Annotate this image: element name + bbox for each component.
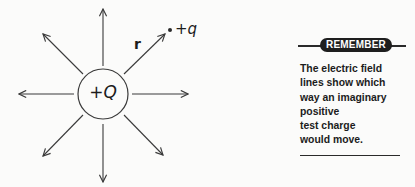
- remember-line: The electric field: [300, 62, 406, 76]
- test-charge-symbol: q: [188, 20, 198, 38]
- remember-line: way an imaginary: [300, 91, 406, 105]
- source-charge-label: +Q: [78, 82, 128, 102]
- remember-badge: REMEMBER: [320, 38, 392, 52]
- remember-header: REMEMBER: [298, 38, 406, 53]
- source-charge-sign: +: [89, 82, 103, 102]
- remember-callout: REMEMBER The electric field lines show w…: [298, 38, 406, 156]
- source-charge-symbol: Q: [103, 82, 116, 102]
- test-charge-dot-icon: [168, 28, 172, 32]
- remember-line: test charge: [300, 119, 406, 133]
- field-line-lower-right-arrow-icon: [124, 115, 163, 155]
- remember-line: lines show which: [300, 76, 406, 90]
- distance-label: r: [134, 36, 141, 52]
- field-line-lower-left-arrow-icon: [43, 115, 83, 156]
- field-line-diagram: +Q r +q: [0, 0, 210, 187]
- field-line-upper-left-arrow-icon: [43, 34, 83, 74]
- remember-text: The electric field lines show which way …: [298, 62, 406, 148]
- field-line-upper-right-arrow-icon: [124, 34, 165, 74]
- remember-line: positive: [300, 105, 406, 119]
- remember-line: would move.: [300, 133, 406, 147]
- test-charge-label: +q: [175, 20, 197, 38]
- footer-divider: [300, 155, 400, 157]
- test-charge-sign: +: [175, 20, 188, 38]
